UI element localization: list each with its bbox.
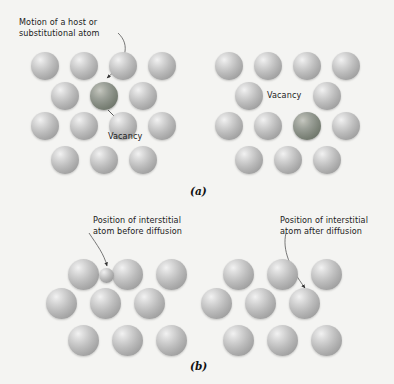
atom-host	[223, 325, 254, 356]
atom-host	[223, 259, 254, 290]
atom-interstitial	[99, 268, 114, 283]
atom-host	[313, 146, 341, 174]
interstitial-before-label: Position of interstitial atom before dif…	[93, 215, 201, 236]
atom-host	[267, 259, 298, 290]
panel-label-a: (a)	[190, 185, 207, 197]
atom-host	[254, 52, 282, 80]
atom-migrating-host	[293, 112, 321, 140]
atom-host	[289, 288, 320, 319]
panel-a: Motion of a host or substitutional atom …	[0, 0, 394, 200]
atom-migrating-host	[90, 82, 118, 110]
atom-host	[156, 325, 187, 356]
atom-host	[70, 112, 98, 140]
atom-host	[90, 288, 121, 319]
atom-host	[51, 82, 79, 110]
vacancy-label-right: Vacancy	[267, 90, 327, 101]
atom-host	[332, 52, 360, 80]
atom-host	[235, 146, 263, 174]
atom-host	[215, 52, 243, 80]
diagram-a-right: Vacancy	[197, 0, 394, 185]
atom-host	[332, 112, 360, 140]
atom-host	[254, 112, 282, 140]
atom-host	[134, 288, 165, 319]
atom-host	[129, 82, 157, 110]
atom-host	[311, 259, 342, 290]
atom-host	[129, 146, 157, 174]
motion-label: Motion of a host or substitutional atom	[19, 17, 127, 38]
atom-host	[235, 82, 263, 110]
atom-host	[51, 146, 79, 174]
atom-host	[70, 52, 98, 80]
atom-host	[293, 52, 321, 80]
diffusion-mechanisms-figure: Motion of a host or substitutional atom …	[0, 0, 394, 384]
atom-host	[267, 325, 298, 356]
diagram-b-right: Position of interstitial atom after diff…	[197, 200, 394, 370]
atom-host	[112, 325, 143, 356]
atom-host	[156, 259, 187, 290]
atom-host	[201, 288, 232, 319]
diagram-b-left: Position of interstitial atom before dif…	[0, 200, 197, 370]
atom-host	[68, 325, 99, 356]
atom-host	[109, 52, 137, 80]
atom-host	[31, 52, 59, 80]
atom-host	[31, 112, 59, 140]
atom-host	[245, 288, 276, 319]
diagram-a-left: Motion of a host or substitutional atom …	[0, 0, 197, 185]
atom-host	[112, 259, 143, 290]
atom-host	[274, 146, 302, 174]
atom-host	[46, 288, 77, 319]
atom-host	[68, 259, 99, 290]
vacancy-label-left: Vacancy	[108, 131, 168, 142]
atom-host	[90, 146, 118, 174]
atom-host	[148, 52, 176, 80]
panel-label-b: (b)	[190, 360, 207, 372]
interstitial-after-label: Position of interstitial atom after diff…	[280, 215, 390, 236]
atom-host	[215, 112, 243, 140]
atom-host	[311, 325, 342, 356]
panel-b: Position of interstitial atom before dif…	[0, 200, 394, 384]
